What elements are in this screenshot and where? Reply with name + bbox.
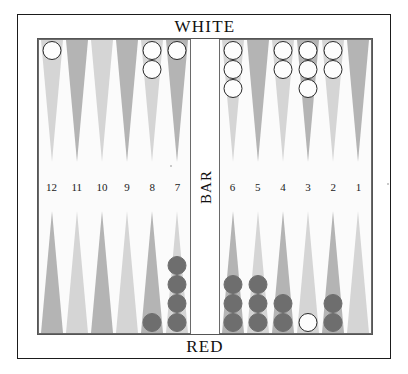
red-checker[interactable] bbox=[143, 313, 162, 332]
board-half-right: 654321 bbox=[219, 39, 372, 334]
white-checker[interactable] bbox=[299, 60, 318, 79]
red-checker[interactable] bbox=[223, 313, 242, 332]
red-checker[interactable] bbox=[248, 294, 267, 313]
point-triangle-bottom-10[interactable] bbox=[91, 211, 113, 333]
point-column-8[interactable]: 8 bbox=[140, 40, 165, 333]
checker-stack-bottom-4[interactable] bbox=[273, 294, 292, 332]
point-column-6[interactable]: 6 bbox=[220, 40, 245, 333]
checker-stack-top-6[interactable] bbox=[223, 41, 242, 98]
page-speck bbox=[170, 165, 172, 167]
point-triangle-top-5[interactable] bbox=[247, 40, 269, 162]
point-column-1[interactable]: 1 bbox=[346, 40, 371, 333]
point-triangle-top-10[interactable] bbox=[91, 40, 113, 162]
bar[interactable]: BAR bbox=[191, 39, 221, 334]
red-checker[interactable] bbox=[324, 313, 343, 332]
white-checker[interactable] bbox=[324, 41, 343, 60]
point-column-4[interactable]: 4 bbox=[270, 40, 295, 333]
point-column-7[interactable]: 7 bbox=[165, 40, 190, 333]
point-column-2[interactable]: 2 bbox=[321, 40, 346, 333]
white-checker[interactable] bbox=[299, 41, 318, 60]
white-checker[interactable] bbox=[299, 79, 318, 98]
game-board: 121110987 BAR 654321 bbox=[37, 38, 373, 335]
white-checker[interactable] bbox=[143, 60, 162, 79]
checker-stack-top-4[interactable] bbox=[273, 41, 292, 79]
board-half-left: 121110987 bbox=[38, 39, 191, 334]
point-triangle-top-9[interactable] bbox=[116, 40, 138, 162]
point-number-6: 6 bbox=[220, 181, 245, 193]
point-number-10: 10 bbox=[89, 181, 114, 193]
point-triangle-top-11[interactable] bbox=[66, 40, 88, 162]
white-checker[interactable] bbox=[168, 41, 187, 60]
white-checker[interactable] bbox=[143, 41, 162, 60]
checker-stack-bottom-6[interactable] bbox=[223, 275, 242, 332]
white-checker[interactable] bbox=[223, 60, 242, 79]
point-column-3[interactable]: 3 bbox=[296, 40, 321, 333]
point-number-5: 5 bbox=[245, 181, 270, 193]
point-number-4: 4 bbox=[270, 181, 295, 193]
checker-stack-bottom-2[interactable] bbox=[324, 294, 343, 332]
checker-stack-bottom-8[interactable] bbox=[143, 313, 162, 332]
left-point-columns: 121110987 bbox=[39, 40, 190, 333]
red-checker[interactable] bbox=[168, 294, 187, 313]
point-triangle-bottom-11[interactable] bbox=[66, 211, 88, 333]
white-checker[interactable] bbox=[42, 41, 61, 60]
white-checker[interactable] bbox=[324, 60, 343, 79]
point-column-5[interactable]: 5 bbox=[245, 40, 270, 333]
point-triangle-bottom-1[interactable] bbox=[347, 211, 369, 333]
red-checker[interactable] bbox=[168, 256, 187, 275]
red-checker[interactable] bbox=[223, 294, 242, 313]
red-checker[interactable] bbox=[168, 275, 187, 294]
checker-stack-top-2[interactable] bbox=[324, 41, 343, 79]
red-checker[interactable] bbox=[324, 294, 343, 313]
point-triangle-bottom-12[interactable] bbox=[41, 211, 63, 333]
red-checker[interactable] bbox=[273, 313, 292, 332]
checker-stack-top-3[interactable] bbox=[299, 41, 318, 98]
point-number-2: 2 bbox=[321, 181, 346, 193]
point-column-12[interactable]: 12 bbox=[39, 40, 64, 333]
checker-stack-top-8[interactable] bbox=[143, 41, 162, 79]
checker-stack-top-7[interactable] bbox=[168, 41, 187, 60]
point-number-7: 7 bbox=[165, 181, 190, 193]
white-checker[interactable] bbox=[273, 41, 292, 60]
point-number-8: 8 bbox=[140, 181, 165, 193]
red-checker[interactable] bbox=[248, 275, 267, 294]
point-column-9[interactable]: 9 bbox=[115, 40, 140, 333]
red-checker[interactable] bbox=[168, 313, 187, 332]
checker-stack-bottom-7[interactable] bbox=[168, 256, 187, 332]
right-point-columns: 654321 bbox=[220, 40, 371, 333]
point-number-11: 11 bbox=[64, 181, 89, 193]
white-checker[interactable] bbox=[223, 79, 242, 98]
red-checker[interactable] bbox=[248, 313, 267, 332]
point-column-10[interactable]: 10 bbox=[89, 40, 114, 333]
checker-stack-bottom-3[interactable] bbox=[299, 313, 318, 332]
point-number-9: 9 bbox=[115, 181, 140, 193]
point-number-12: 12 bbox=[39, 181, 64, 193]
red-player-label: RED bbox=[18, 337, 392, 357]
white-checker[interactable] bbox=[299, 313, 318, 332]
point-number-1: 1 bbox=[346, 181, 371, 193]
point-number-3: 3 bbox=[296, 181, 321, 193]
outer-frame: WHITE RED 121110987 BAR 654321 bbox=[17, 14, 391, 359]
checker-stack-bottom-5[interactable] bbox=[248, 275, 267, 332]
point-triangle-bottom-9[interactable] bbox=[116, 211, 138, 333]
white-checker[interactable] bbox=[273, 60, 292, 79]
red-checker[interactable] bbox=[223, 275, 242, 294]
backgammon-screenshot: WHITE RED 121110987 BAR 654321 bbox=[0, 0, 408, 374]
white-player-label: WHITE bbox=[18, 17, 392, 37]
point-column-11[interactable]: 11 bbox=[64, 40, 89, 333]
bar-label: BAR bbox=[198, 170, 215, 204]
point-triangle-top-1[interactable] bbox=[347, 40, 369, 162]
checker-stack-top-12[interactable] bbox=[42, 41, 61, 60]
red-checker[interactable] bbox=[273, 294, 292, 313]
white-checker[interactable] bbox=[223, 41, 242, 60]
page-speck bbox=[387, 183, 389, 185]
